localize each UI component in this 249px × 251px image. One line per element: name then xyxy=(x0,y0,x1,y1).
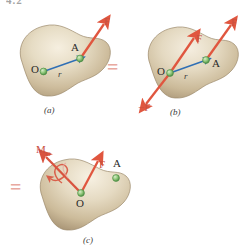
label-point-A-b: A xyxy=(212,58,220,69)
label-force-F-at-A-b: F xyxy=(231,17,237,28)
figure-vector-graphics xyxy=(0,0,249,251)
label-moment-MO-c: MO xyxy=(36,144,51,158)
label-force-minusF-b: −F xyxy=(138,102,150,113)
label-point-A-c: A xyxy=(113,158,121,169)
point-marker-A-c xyxy=(113,175,120,182)
label-point-O-b: O xyxy=(157,66,165,77)
caption-c: (c) xyxy=(83,236,93,245)
caption-b: (b) xyxy=(170,108,181,117)
point-marker-A-b xyxy=(203,57,210,64)
equals-sign-2: = xyxy=(10,177,21,197)
equals-sign-1: = xyxy=(107,57,118,77)
caption-a: (a) xyxy=(44,106,55,115)
label-moment-M-glyph: M xyxy=(36,143,46,155)
body-blob-c xyxy=(40,159,130,230)
panel-a-group xyxy=(20,24,110,96)
label-force-F-c: F xyxy=(99,159,105,170)
point-marker-O-c xyxy=(78,190,85,197)
label-force-F-at-O-b: F xyxy=(196,33,202,44)
label-point-O-c: O xyxy=(76,198,84,209)
label-vector-r-a: r xyxy=(58,70,62,79)
point-marker-O-a xyxy=(40,68,47,75)
figure-moment-transfer: 4.2 xyxy=(0,0,249,251)
point-marker-A-a xyxy=(77,55,84,62)
label-vector-r-b: r xyxy=(184,72,188,81)
label-force-F-a: F xyxy=(104,16,110,27)
label-point-A-a: A xyxy=(71,42,79,53)
point-marker-O-b xyxy=(167,70,174,77)
label-moment-subscript-O: O xyxy=(46,150,51,158)
label-point-O-a: O xyxy=(31,64,39,75)
